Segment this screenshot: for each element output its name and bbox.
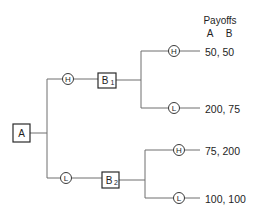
payoffs-title: Payoffs [203, 15, 236, 26]
move-b1-high: H [169, 46, 180, 57]
move-b1-high-label: H [171, 47, 177, 56]
payoff-hl: 200, 75 [205, 103, 240, 115]
payoffs-col-b: B [226, 28, 233, 39]
node-b1-sub: 1 [111, 79, 115, 86]
node-b2: B 2 [102, 172, 119, 188]
move-a-low: L [61, 173, 72, 184]
node-b2-label: B [106, 175, 113, 186]
move-b1-low-label: L [172, 104, 177, 113]
game-tree-diagram: A H L B 1 B 2 H L H L Payoffs A B [0, 0, 259, 215]
payoff-hh: 50, 50 [205, 46, 234, 58]
node-root-label: A [18, 128, 25, 139]
node-b2-sub: 2 [114, 179, 118, 186]
node-b1-label: B [102, 75, 109, 86]
payoff-lh: 75, 200 [205, 145, 240, 157]
move-a-low-label: L [64, 174, 69, 183]
move-b2-low: L [174, 193, 185, 204]
node-b1: B 1 [98, 73, 116, 88]
node-root-a: A [13, 124, 30, 142]
move-b2-high: H [174, 145, 185, 156]
payoff-ll: 100, 100 [205, 193, 246, 205]
move-b2-high-label: H [176, 146, 182, 155]
move-b2-low-label: L [177, 194, 182, 203]
move-b1-low: L [169, 103, 180, 114]
move-a-high-label: H [65, 75, 71, 84]
payoffs-col-a: A [207, 28, 214, 39]
move-a-high: H [63, 74, 74, 85]
